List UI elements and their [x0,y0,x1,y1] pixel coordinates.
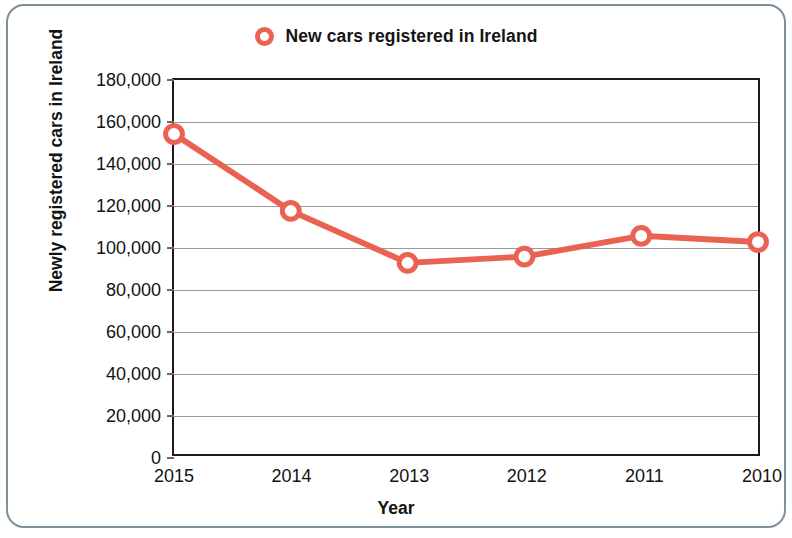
y-tick-mark [167,415,174,417]
legend-circle-marker-icon [255,27,274,46]
y-tick-label: 140,000 [96,154,161,175]
y-tick-label: 20,000 [106,406,161,427]
data-point-marker [750,234,767,251]
chart-legend: New cars registered in Ireland [8,26,784,47]
y-tick-label: 60,000 [106,322,161,343]
plot-area: 020,00040,00060,00080,000100,000120,0001… [172,78,760,456]
y-tick-mark [167,331,174,333]
x-tick-label: 2012 [507,466,547,487]
data-point-marker [399,254,416,271]
data-point-marker [633,227,650,244]
y-tick-label: 180,000 [96,70,161,91]
y-tick-mark [167,247,174,249]
y-tick-label: 80,000 [106,280,161,301]
series-line [174,134,758,263]
y-tick-mark [167,79,174,81]
y-tick-mark [167,289,174,291]
x-tick-label: 2013 [389,466,429,487]
y-tick-mark [167,121,174,123]
legend-series-label: New cars registered in Ireland [286,26,538,47]
data-point-marker [282,202,299,219]
data-point-marker [166,126,183,143]
y-tick-mark [167,373,174,375]
data-point-marker [516,248,533,265]
y-tick-label: 100,000 [96,238,161,259]
y-axis-title: Newly registered cars in Ireland [46,1,67,321]
y-tick-mark [167,457,174,459]
x-axis-title: Year [8,498,784,519]
y-tick-label: 40,000 [106,364,161,385]
x-tick-label: 2010 [742,466,782,487]
x-tick-label: 2014 [272,466,312,487]
series-line-chart [174,80,758,454]
x-tick-label: 2015 [154,466,194,487]
y-tick-label: 120,000 [96,196,161,217]
y-tick-mark [167,163,174,165]
chart-card: New cars registered in Ireland Newly reg… [6,4,786,528]
x-tick-label: 2011 [625,466,664,487]
y-tick-mark [167,205,174,207]
y-tick-label: 160,000 [96,112,161,133]
